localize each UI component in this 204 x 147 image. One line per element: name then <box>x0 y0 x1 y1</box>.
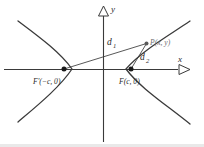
left-focus-dot <box>62 67 67 72</box>
point-p-dot <box>145 42 149 46</box>
hyperbola-figure: y x d 1 d 2 P(x, y) F'(−c, 0) F(c, 0) <box>0 0 204 147</box>
triangle-right-outline-icon <box>179 65 190 75</box>
axes-group <box>4 6 190 142</box>
figure-canvas: y x d 1 d 2 P(x, y) F'(−c, 0) F(c, 0) <box>0 0 204 147</box>
focal-radii-group <box>64 44 147 70</box>
point-p-label: P(x, y) <box>149 38 171 47</box>
segment-d1 <box>64 44 147 70</box>
d1-label-subscript: 1 <box>113 42 116 49</box>
y-axis-label: y <box>110 4 115 14</box>
left-focus-label: F'(−c, 0) <box>32 77 61 86</box>
x-axis-label: x <box>177 54 182 64</box>
triangle-up-outline-icon <box>99 6 109 16</box>
d1-label-base: d <box>107 37 112 47</box>
d1-label: d 1 <box>107 37 116 49</box>
bottom-edge-band <box>0 144 204 147</box>
d2-label-base: d <box>140 52 145 62</box>
right-focus-label: F(c, 0) <box>118 77 140 86</box>
d2-label-subscript: 2 <box>146 57 150 64</box>
left-branch <box>18 21 72 122</box>
right-focus-dot <box>129 67 134 72</box>
d2-label: d 2 <box>140 52 150 64</box>
